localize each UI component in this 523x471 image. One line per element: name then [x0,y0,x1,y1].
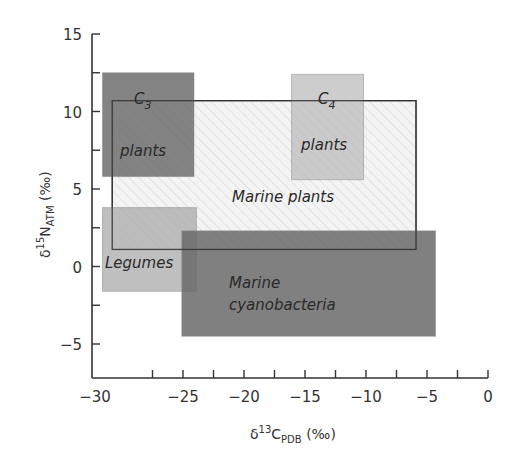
y-axis-title: δ15NATM (‰) [35,171,56,258]
x-tick-label: −25 [167,388,199,406]
c3-label-line2: plants [119,142,166,160]
region-marine-cyanobacteria [182,231,436,336]
x-tick-label: −15 [289,388,321,406]
y-tick-label: 10 [63,104,82,122]
y-tick-label: 15 [63,26,82,44]
marine-plants-label: Marine plants [232,188,334,206]
y-tick-label: 0 [72,259,82,277]
x-tick-label: −30 [79,388,111,406]
x-tick-label: −20 [228,388,260,406]
x-axis-title: δ13CPDB (‰) [250,424,336,445]
region-c3-plants [102,73,194,177]
y-tick-label: −5 [60,336,82,354]
isotope-chart: −5051015−30−25−20−15−10−50 C3 plants C4 … [0,0,523,471]
x-tick-label: −5 [416,388,438,406]
x-tick-label: 0 [483,388,493,406]
cyano-label-line2: cyanobacteria [229,296,336,314]
y-tick-label: 5 [72,181,82,199]
cyano-label-line1: Marine [229,274,280,292]
c4-label-line2: plants [300,136,347,154]
x-tick-label: −10 [350,388,382,406]
legumes-label: Legumes [105,254,173,272]
